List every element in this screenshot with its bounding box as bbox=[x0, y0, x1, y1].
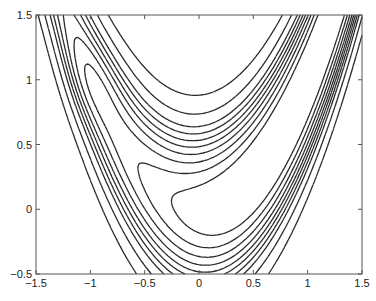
y-tick-label: 1 bbox=[26, 74, 32, 86]
y-tick-label: 0 bbox=[26, 203, 32, 215]
x-tick-label: 1.5 bbox=[354, 277, 369, 289]
x-tick-label: −1 bbox=[84, 277, 97, 289]
x-tick-label: 1 bbox=[305, 277, 311, 289]
y-tick-label: 1.5 bbox=[17, 9, 32, 21]
y-tick-label: −0.5 bbox=[10, 268, 32, 280]
x-tick-label: −0.5 bbox=[134, 277, 156, 289]
x-tick-label: 0 bbox=[196, 277, 202, 289]
x-tick-label: 0.5 bbox=[246, 277, 261, 289]
y-tick-label: 0.5 bbox=[17, 139, 32, 151]
contour-figure: −1.5−1−0.500.511.5 −0.500.511.5 bbox=[0, 0, 376, 301]
